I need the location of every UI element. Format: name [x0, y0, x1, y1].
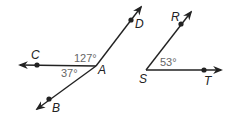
label-B: B: [52, 101, 60, 115]
label-R: R: [171, 10, 180, 24]
angle-CAD-measure: 127°: [74, 52, 97, 64]
label-C: C: [31, 48, 40, 62]
label-D: D: [135, 17, 144, 31]
right-angle-figure: R S T 53°: [139, 10, 221, 88]
label-T: T: [204, 74, 213, 88]
angle-RST-measure: 53°: [160, 56, 177, 68]
angle-CAB-measure: 37°: [61, 67, 78, 79]
point-C: [34, 62, 39, 67]
label-A: A: [97, 63, 106, 77]
point-T: [201, 67, 206, 72]
point-D: [128, 17, 133, 22]
ray-AD: [96, 7, 141, 66]
ray-AC: [20, 65, 96, 66]
left-angle-figure: C D B A 127° 37°: [20, 7, 144, 115]
point-B: [46, 96, 51, 101]
angle-diagram: C D B A 127° 37° R S T 53°: [0, 0, 227, 121]
label-S: S: [139, 72, 147, 86]
